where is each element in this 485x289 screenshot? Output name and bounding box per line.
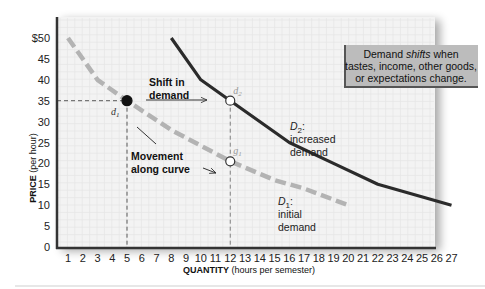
point-d2 <box>226 96 235 105</box>
movement-label-line-2: along curve <box>131 163 190 175</box>
x-tick-label: 22 <box>372 252 384 264</box>
shift-label-line-2: demand <box>149 89 189 101</box>
y-tick-label: 15 <box>38 178 50 190</box>
x-tick-label: 24 <box>401 252 413 264</box>
x-tick-label: 1 <box>65 252 71 264</box>
x-tick-label: 10 <box>195 252 207 264</box>
x-tick-label: 3 <box>94 252 100 264</box>
x-tick-label: 11 <box>210 252 221 264</box>
y-tick-label: 20 <box>38 157 50 169</box>
x-tick-label: 5 <box>124 252 130 264</box>
x-tick-label: 26 <box>431 252 443 264</box>
x-tick-labels: 1234567891011121314151617181920212223242… <box>65 252 458 264</box>
x-tick-label: 27 <box>445 252 457 264</box>
x-tick-label: 18 <box>313 252 325 264</box>
x-tick-label: 12 <box>224 252 236 264</box>
callout-line-2: tastes, income, other goods, <box>345 60 477 72</box>
x-tick-label: 15 <box>268 252 280 264</box>
x-tick-label: 2 <box>80 252 86 264</box>
y-tick-label: $50 <box>32 32 50 44</box>
x-tick-label: 20 <box>342 252 354 264</box>
point-d1 <box>122 96 132 106</box>
x-tick-label: 6 <box>139 252 145 264</box>
point-g1 <box>226 157 235 166</box>
x-axis-title: QUANTITY (hours per semester) <box>183 265 315 275</box>
y-tick-label: 35 <box>38 95 50 107</box>
y-tick-label: 0 <box>44 241 50 253</box>
y-axis-title: PRICE (per hour) <box>28 133 38 203</box>
x-tick-label: 14 <box>254 252 266 264</box>
x-tick-label: 8 <box>168 252 174 264</box>
d2-desc-line-2: demand <box>290 146 328 158</box>
callout-line-1: Demand shifts when <box>363 48 458 60</box>
d2-desc-line-1: increased <box>290 133 336 145</box>
d1-desc-line-2: demand <box>278 221 316 233</box>
x-tick-label: 9 <box>183 252 189 264</box>
x-tick-label: 16 <box>283 252 295 264</box>
x-tick-label: 7 <box>153 252 159 264</box>
movement-label-line-1: Movement <box>131 150 183 162</box>
y-tick-label: 45 <box>38 53 50 65</box>
callout-box: Demand shifts when tastes, income, other… <box>344 45 478 87</box>
x-tick-label: 4 <box>109 252 115 264</box>
x-tick-label: 17 <box>298 252 310 264</box>
y-tick-label: 10 <box>38 199 50 211</box>
y-tick-label: 40 <box>38 74 50 86</box>
y-tick-label: 5 <box>44 220 50 232</box>
x-tick-label: 13 <box>239 252 251 264</box>
x-tick-label: 21 <box>357 252 369 264</box>
d1-desc-line-1: initial <box>278 208 302 220</box>
y-tick-label: 25 <box>38 137 50 149</box>
callout-line-3: or expectations change. <box>355 72 467 84</box>
demand-shift-chart: Demand shifts when tastes, income, other… <box>0 0 485 289</box>
x-tick-label: 25 <box>416 252 428 264</box>
shift-label-line-1: Shift in <box>149 76 185 88</box>
x-tick-label: 23 <box>386 252 398 264</box>
y-tick-label: 30 <box>38 116 50 128</box>
x-tick-label: 19 <box>327 252 339 264</box>
